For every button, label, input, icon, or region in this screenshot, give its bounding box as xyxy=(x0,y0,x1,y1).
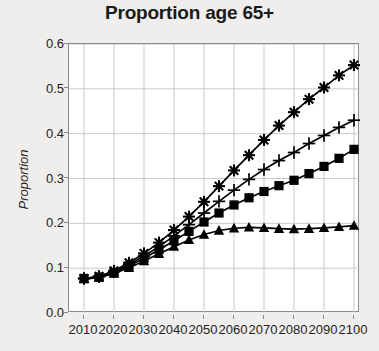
x-tick-label: 2070 xyxy=(249,322,278,337)
x-tick-mark xyxy=(143,315,144,319)
plot-svg xyxy=(69,44,360,313)
y-tick-label: 0.5 xyxy=(24,80,64,95)
data-point-square xyxy=(259,187,268,196)
y-axis-tick-labels: 0.00.10.20.30.40.50.6 xyxy=(20,43,64,312)
x-tick-label: 2050 xyxy=(189,322,218,337)
x-tick-mark xyxy=(173,315,174,319)
data-point-star xyxy=(303,93,315,105)
data-point-plus xyxy=(288,146,300,158)
data-point-star xyxy=(348,59,360,71)
data-point-plus xyxy=(333,121,345,133)
data-point-square xyxy=(334,154,343,163)
x-tick-label: 2030 xyxy=(129,322,158,337)
data-point-square xyxy=(349,145,358,154)
y-tick-label: 0.6 xyxy=(24,36,64,51)
y-tick-label: 0.0 xyxy=(24,305,64,320)
x-tick-mark xyxy=(323,315,324,319)
x-axis-tick-labels: 2010202020302040205020602070208020902100 xyxy=(68,315,359,339)
plot-area xyxy=(68,43,359,312)
data-point-square xyxy=(289,176,298,185)
series-plus xyxy=(78,114,360,285)
data-point-plus xyxy=(348,114,360,126)
data-point-star xyxy=(318,81,330,93)
series-star xyxy=(78,59,360,284)
series-triangle xyxy=(79,220,359,283)
data-point-plus xyxy=(273,154,285,166)
data-point-plus xyxy=(243,173,255,185)
chart-title: Proportion age 65+ xyxy=(0,2,379,24)
x-tick-label: 2010 xyxy=(69,322,98,337)
data-point-plus xyxy=(318,129,330,141)
x-tick-label: 2080 xyxy=(279,322,308,337)
data-point-star xyxy=(198,196,210,208)
data-point-square xyxy=(319,162,328,171)
chart-container: Proportion age 65+ Proportion 0.00.10.20… xyxy=(0,0,379,351)
data-point-triangle xyxy=(349,220,359,230)
data-point-star xyxy=(228,164,240,176)
y-tick-label: 0.1 xyxy=(24,260,64,275)
data-point-star xyxy=(333,69,345,81)
series-square xyxy=(79,145,358,283)
x-tick-mark xyxy=(113,315,114,319)
data-point-square xyxy=(244,193,253,202)
data-point-star xyxy=(258,134,270,146)
data-point-star xyxy=(273,120,285,132)
x-tick-mark xyxy=(83,315,84,319)
y-tick-label: 0.2 xyxy=(24,215,64,230)
data-point-star xyxy=(288,106,300,118)
x-tick-label: 2020 xyxy=(99,322,128,337)
data-point-star xyxy=(213,180,225,192)
y-tick-label: 0.4 xyxy=(24,125,64,140)
data-point-square xyxy=(274,181,283,190)
x-tick-mark xyxy=(293,315,294,319)
x-tick-label: 2090 xyxy=(309,322,338,337)
x-tick-mark xyxy=(353,315,354,319)
data-point-plus xyxy=(228,184,240,196)
data-point-square xyxy=(214,208,223,217)
x-tick-mark xyxy=(203,315,204,319)
x-tick-label: 2060 xyxy=(219,322,248,337)
data-point-square xyxy=(304,169,313,178)
y-tick-label: 0.3 xyxy=(24,170,64,185)
x-tick-label: 2040 xyxy=(159,322,188,337)
data-point-star xyxy=(243,149,255,161)
x-tick-label: 2100 xyxy=(339,322,368,337)
data-point-square xyxy=(229,200,238,209)
x-tick-mark xyxy=(233,315,234,319)
x-tick-mark xyxy=(263,315,264,319)
data-point-plus xyxy=(303,137,315,149)
data-point-plus xyxy=(258,163,270,175)
data-point-square xyxy=(199,217,208,226)
